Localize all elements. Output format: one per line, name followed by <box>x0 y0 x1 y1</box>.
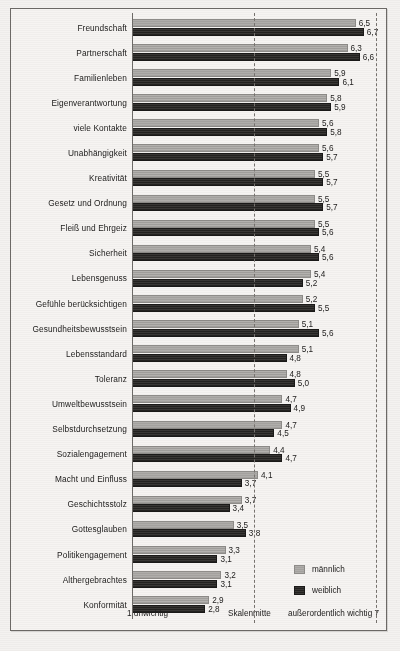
bar-weiblich <box>132 53 360 61</box>
bar-value-label: 5,7 <box>323 203 337 212</box>
legend: männlich weiblich <box>294 561 384 603</box>
bar-group: 5,55,7 <box>132 166 388 191</box>
bar-track-männlich: 4,7 <box>132 421 388 429</box>
category-label: Gesetz und Ordnung <box>0 198 127 208</box>
bar-track-männlich: 5,5 <box>132 195 388 203</box>
bar-weiblich <box>132 404 291 412</box>
bar-group: 6,36,6 <box>132 40 388 65</box>
bar-track-männlich: 3,3 <box>132 546 388 554</box>
bar-track-weiblich: 5,8 <box>132 128 388 136</box>
bar-männlich <box>132 170 315 178</box>
bar-track-weiblich: 6,7 <box>132 28 388 36</box>
bar-weiblich <box>132 454 282 462</box>
bar-row: Gottesglauben3,53,8 <box>11 517 388 542</box>
bar-track-männlich: 5,9 <box>132 69 388 77</box>
category-label: Unabhängigkeit <box>0 148 127 158</box>
bar-männlich <box>132 195 315 203</box>
bar-row: Sozialengagement4,44,7 <box>11 442 388 467</box>
bar-weiblich <box>132 103 331 111</box>
bar-weiblich <box>132 504 230 512</box>
bar-group: 4,85,0 <box>132 366 388 391</box>
bar-value-label: 5,1 <box>299 320 313 329</box>
bar-value-label: 5,9 <box>331 102 345 111</box>
bar-group: 4,74,5 <box>132 417 388 442</box>
bar-row: Familienleben5,96,1 <box>11 65 388 90</box>
bar-value-label: 3,1 <box>217 554 231 563</box>
bar-row: Geschichtsstolz3,73,4 <box>11 492 388 517</box>
bar-value-label: 5,5 <box>315 303 329 312</box>
bar-value-label: 5,0 <box>295 378 309 387</box>
legend-label-weiblich: weiblich <box>312 586 341 595</box>
bar-row: Sicherheit5,45,6 <box>11 241 388 266</box>
axis-captions: 1 unwichtig Skalenmitte außerordentlich … <box>11 609 388 625</box>
bar-track-männlich: 4,1 <box>132 471 388 479</box>
bar-männlich <box>132 345 299 353</box>
bar-weiblich <box>132 354 287 362</box>
bar-group: 5,55,7 <box>132 191 388 216</box>
bar-weiblich <box>132 479 242 487</box>
category-label: Macht und Einfluss <box>0 474 127 484</box>
bar-track-weiblich: 5,9 <box>132 103 388 111</box>
category-label: Sicherheit <box>0 248 127 258</box>
legend-item-weiblich: weiblich <box>294 582 384 598</box>
bar-value-label: 6,6 <box>360 52 374 61</box>
axis-caption-middle: Skalenmitte <box>228 609 271 618</box>
bar-männlich <box>132 596 209 604</box>
bar-track-weiblich: 6,1 <box>132 78 388 86</box>
bar-weiblich <box>132 228 319 236</box>
legend-swatch-maennlich <box>294 565 305 574</box>
bar-row: Selbstdurchsetzung4,74,5 <box>11 417 388 442</box>
bar-track-männlich: 5,4 <box>132 245 388 253</box>
bar-row: Fleiß und Ehrgeiz5,55,6 <box>11 216 388 241</box>
bar-value-label: 5,7 <box>323 178 337 187</box>
bar-männlich <box>132 220 315 228</box>
axis-line-min <box>132 13 133 619</box>
category-label: Gesundheitsbewusstsein <box>0 324 127 334</box>
axis-line-max <box>376 13 377 623</box>
category-label: Sozialengagement <box>0 449 127 459</box>
legend-swatch-weiblich <box>294 586 305 595</box>
bar-track-weiblich: 5,5 <box>132 304 388 312</box>
category-label: viele Kontakte <box>0 123 127 133</box>
bar-männlich <box>132 370 287 378</box>
category-label: Lebensgenuss <box>0 273 127 283</box>
bar-group: 4,74,9 <box>132 391 388 416</box>
bar-track-männlich: 5,5 <box>132 170 388 178</box>
bar-row: Eigenverantwortung5,85,9 <box>11 90 388 115</box>
bar-weiblich <box>132 329 319 337</box>
bar-row: Umweltbewusstsein4,74,9 <box>11 391 388 416</box>
category-label: Toleranz <box>0 374 127 384</box>
category-label: Althergebrachtes <box>0 575 127 585</box>
bar-männlich <box>132 320 299 328</box>
bar-row: Lebensgenuss5,45,2 <box>11 266 388 291</box>
bar-track-weiblich: 5,7 <box>132 203 388 211</box>
bar-track-männlich: 5,6 <box>132 119 388 127</box>
bar-value-label: 3,4 <box>230 504 244 513</box>
bar-track-weiblich: 4,5 <box>132 429 388 437</box>
bar-weiblich <box>132 78 339 86</box>
category-label: Gefühle berücksichtigen <box>0 299 127 309</box>
category-label: Kreativität <box>0 173 127 183</box>
bar-weiblich <box>132 253 319 261</box>
axis-caption-right: außerordentlich wichtig 7 <box>288 609 379 618</box>
bar-track-männlich: 4,4 <box>132 446 388 454</box>
bar-track-männlich: 3,7 <box>132 496 388 504</box>
bar-track-männlich: 5,1 <box>132 345 388 353</box>
bar-männlich <box>132 144 319 152</box>
bar-männlich <box>132 421 282 429</box>
bar-männlich <box>132 395 282 403</box>
bar-group: 5,45,2 <box>132 266 388 291</box>
bar-value-label: 5,6 <box>319 328 333 337</box>
bar-value-label: 3,1 <box>217 579 231 588</box>
bar-track-männlich: 4,8 <box>132 370 388 378</box>
bar-track-weiblich: 4,7 <box>132 454 388 462</box>
bar-weiblich <box>132 153 323 161</box>
bar-group: 5,96,1 <box>132 65 388 90</box>
bar-track-weiblich: 4,8 <box>132 354 388 362</box>
bar-row: Unabhängigkeit5,65,7 <box>11 140 388 165</box>
bar-value-label: 4,9 <box>291 404 305 413</box>
bar-value-label: 5,8 <box>327 127 341 136</box>
bar-männlich <box>132 496 242 504</box>
bar-value-label: 6,1 <box>339 77 353 86</box>
bar-weiblich <box>132 529 246 537</box>
